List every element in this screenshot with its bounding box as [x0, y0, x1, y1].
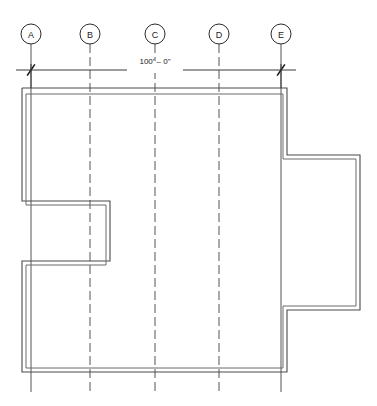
grid-bubble-label: A — [28, 30, 34, 40]
grid-bubble-c[interactable]: C — [145, 24, 165, 44]
grid-bubble-a[interactable]: A — [21, 24, 41, 44]
grid-bubble-b[interactable]: B — [80, 24, 100, 44]
grid-bubble-e[interactable]: E — [271, 24, 291, 44]
dimension-label: 100' – 0" — [139, 57, 170, 66]
floor-plan-drawing: 100' – 0" ABCDE — [0, 0, 377, 406]
building-outer-wall — [22, 88, 360, 372]
grid-bubble-label: C — [152, 30, 159, 40]
dimension-group: 100' – 0" — [16, 57, 296, 88]
building-outline-group — [22, 88, 360, 372]
plan-canvas: 100' – 0" ABCDE — [0, 0, 377, 406]
grid-bubble-d[interactable]: D — [209, 24, 229, 44]
building-inner-wall — [26, 94, 356, 368]
grid-bubbles-group: ABCDE — [21, 24, 291, 44]
grid-bubble-label: D — [216, 30, 223, 40]
grid-bubble-label: B — [87, 30, 93, 40]
grid-bubble-label: E — [278, 30, 284, 40]
grid-lines-group — [31, 44, 281, 392]
